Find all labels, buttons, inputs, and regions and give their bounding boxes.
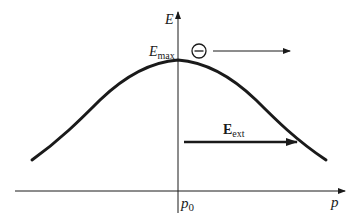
energy-axis-label: E (164, 12, 174, 27)
field-label: Eext (223, 122, 245, 139)
energy-band-diagram: E Emax Eext p0 p (0, 0, 362, 221)
electron-icon (192, 44, 206, 58)
momentum-axis-label: p (330, 194, 339, 210)
emax-label: Emax (148, 44, 175, 61)
energy-band-curve (32, 60, 326, 160)
origin-label: p0 (180, 195, 195, 213)
